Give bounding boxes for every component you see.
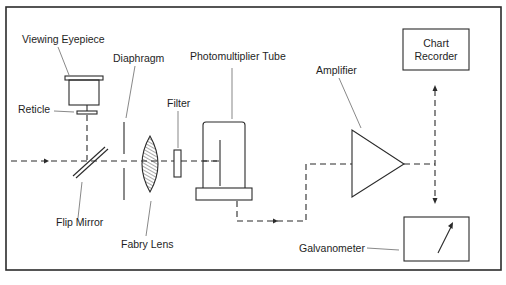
viewing-eyepiece-label: Viewing Eyepiece (22, 33, 105, 45)
galvanometer-needle (438, 227, 451, 253)
fabry-lens-leader (146, 201, 151, 236)
amplifier-leader (339, 78, 361, 128)
amplifier-label: Amplifier (316, 64, 357, 76)
reticle-leader (54, 111, 74, 112)
filter-label: Filter (167, 97, 191, 109)
chart-recorder-label-line2: Recorder (414, 50, 458, 62)
fabry-lens (142, 136, 158, 192)
diaphragm-label: Diaphragm (113, 52, 165, 64)
pmt-to-amplifier-signal (237, 164, 352, 221)
chart-recorder-label-line1: Chart (423, 37, 449, 49)
arrow-up-icon (433, 85, 438, 91)
galvanometer-leader (367, 248, 399, 250)
arrow-down-icon (433, 198, 438, 204)
filter (174, 150, 181, 177)
fabry-lens-label: Fabry Lens (121, 238, 174, 250)
diaphragm-leader (126, 66, 135, 118)
galvanometer-label: Galvanometer (299, 242, 365, 254)
galvanometer (404, 217, 469, 261)
photomultiplier-tube-label: Photomultiplier Tube (190, 50, 286, 62)
instrument-diagram: Viewing Eyepiece Reticle Flip Mirror Dia… (0, 0, 506, 285)
viewing-eyepiece-leader (58, 47, 69, 75)
flip-mirror-leader (78, 182, 82, 218)
reticle (77, 111, 97, 114)
reticle-label: Reticle (18, 103, 50, 115)
input-arrow-icon (44, 159, 49, 164)
flip-mirror-label: Flip Mirror (56, 216, 104, 228)
viewing-eyepiece (65, 76, 103, 111)
flip-mirror (73, 147, 108, 178)
signal-arrow-icon (273, 219, 278, 224)
amplifier (352, 130, 404, 197)
